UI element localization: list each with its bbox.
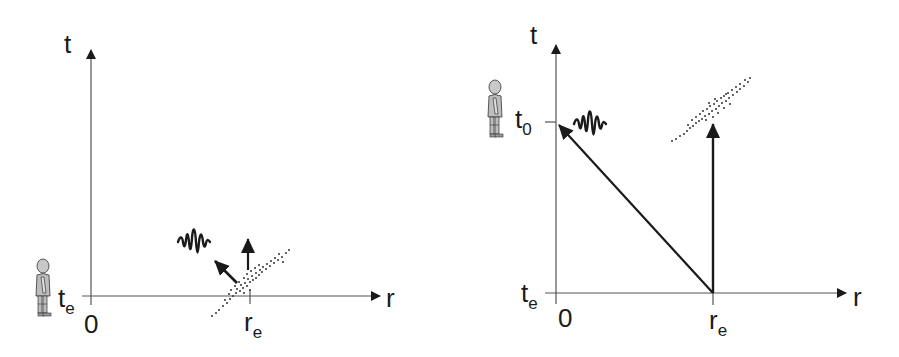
left-re-label: re	[244, 307, 262, 342]
left-panel: t r 0 te re	[36, 29, 395, 342]
right-re-label: re	[709, 305, 727, 340]
right-light-ray-arrow	[559, 125, 713, 293]
right-r-axis-label: r	[853, 282, 862, 312]
left-r-axis-label: r	[386, 283, 395, 313]
left-te-label: te	[58, 283, 75, 318]
right-origin-label: 0	[558, 303, 572, 333]
left-light-wave-icon	[178, 229, 210, 252]
right-matter-cloud	[671, 77, 751, 142]
right-te-label: te	[521, 278, 538, 313]
right-t-axis-label: t	[530, 20, 538, 50]
left-observer-icon	[36, 259, 51, 316]
right-observer-icon	[488, 80, 503, 137]
right-panel: t r 0 te t0 re	[488, 20, 862, 340]
left-diagonal-arrow	[215, 261, 237, 283]
left-t-axis-label: t	[64, 29, 72, 59]
right-light-wave-icon	[574, 111, 606, 134]
right-t0-label: t0	[515, 104, 532, 139]
spacetime-diagrams: t r 0 te re	[0, 0, 899, 357]
left-origin-label: 0	[84, 309, 98, 339]
